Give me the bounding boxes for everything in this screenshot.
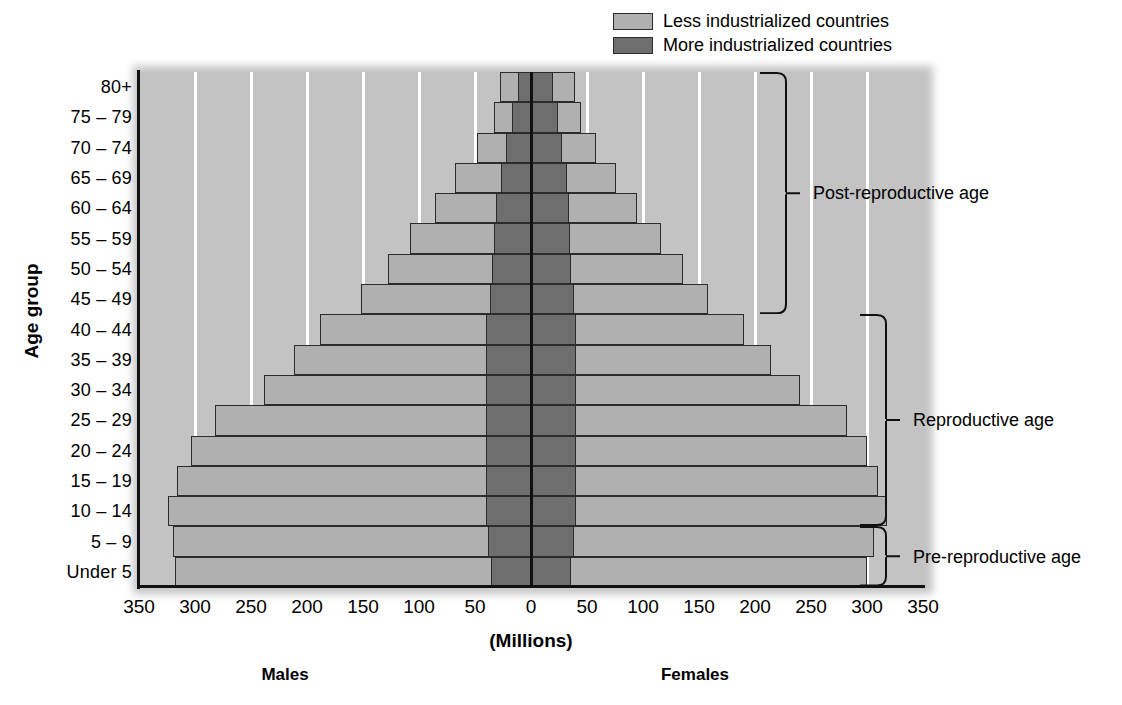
pyramid-row (0, 72, 1122, 102)
x-axis-line (137, 585, 925, 588)
x-axis-tick-label: 200 (277, 596, 337, 618)
bar-males-more-industrialized (486, 405, 531, 435)
bar-males-less-industrialized (168, 496, 531, 526)
bar-males-more-industrialized (506, 133, 531, 163)
x-axis-tick-label: 50 (557, 596, 617, 618)
pyramid-row (0, 223, 1122, 253)
bar-males-less-industrialized (177, 466, 531, 496)
bar-females-less-industrialized (531, 496, 887, 526)
legend-label-less-industrialized: Less industrialized countries (663, 12, 889, 30)
bar-females-less-industrialized (531, 557, 867, 587)
x-axis-tick-label: 350 (893, 596, 953, 618)
pyramid-row (0, 436, 1122, 466)
bar-males-more-industrialized (486, 314, 531, 344)
pyramid-row (0, 284, 1122, 314)
bracket-label: Pre-reproductive age (913, 548, 1081, 566)
bar-females-less-industrialized (531, 466, 878, 496)
x-axis-tick-label: 300 (837, 596, 897, 618)
males-side-label: Males (215, 665, 355, 685)
bar-females-more-industrialized (531, 314, 576, 344)
x-axis-tick-label: 100 (389, 596, 449, 618)
legend-swatch-less-industrialized (613, 13, 653, 30)
x-axis-tick-label: 200 (725, 596, 785, 618)
x-axis-tick-label: 150 (333, 596, 393, 618)
bar-females-more-industrialized (531, 284, 574, 314)
pyramid-row (0, 345, 1122, 375)
center-axis-line (530, 72, 533, 587)
x-axis-tick-label: 250 (781, 596, 841, 618)
bar-females-more-industrialized (531, 466, 576, 496)
x-axis-tick-labels: 3503002502001501005005010015020025030035… (0, 596, 1122, 622)
bar-males-more-industrialized (486, 496, 531, 526)
bar-females-more-industrialized (531, 163, 567, 193)
bar-males-more-industrialized (501, 163, 531, 193)
bracket-reproductive (860, 314, 900, 526)
bracket-label: Reproductive age (913, 411, 1054, 429)
y-axis-line (137, 70, 140, 589)
legend-swatch-more-industrialized (613, 37, 653, 54)
bar-males-less-industrialized (191, 436, 531, 466)
x-axis-tick-label: 150 (669, 596, 729, 618)
bar-females-more-industrialized (531, 557, 571, 587)
bar-males-less-industrialized (215, 405, 531, 435)
pyramid-row (0, 375, 1122, 405)
bar-females-more-industrialized (531, 345, 576, 375)
bar-males-more-industrialized (494, 223, 531, 253)
bar-females-more-industrialized (531, 223, 570, 253)
bar-females-more-industrialized (531, 102, 558, 132)
pyramid-row (0, 254, 1122, 284)
bar-males-more-industrialized (486, 375, 531, 405)
bar-males-more-industrialized (491, 557, 531, 587)
pyramid-row (0, 133, 1122, 163)
bar-males-more-industrialized (486, 436, 531, 466)
legend-label-more-industrialized: More industrialized countries (663, 36, 892, 54)
x-axis-tick-label: 100 (613, 596, 673, 618)
bar-females-more-industrialized (531, 405, 576, 435)
bar-females-less-industrialized (531, 436, 867, 466)
bracket-pre-reproductive (860, 526, 900, 587)
legend-item-less-industrialized: Less industrialized countries (613, 10, 892, 32)
bar-females-more-industrialized (531, 193, 569, 223)
bar-females-more-industrialized (531, 72, 553, 102)
bar-females-less-industrialized (531, 526, 874, 556)
bar-females-more-industrialized (531, 526, 574, 556)
bar-males-more-industrialized (486, 345, 531, 375)
bar-males-more-industrialized (492, 254, 531, 284)
x-axis-tick-label: 350 (109, 596, 169, 618)
x-axis-tick-label: 300 (165, 596, 225, 618)
x-axis-tick-label: 50 (445, 596, 505, 618)
pyramid-row (0, 102, 1122, 132)
bracket-label: Post-reproductive age (813, 184, 989, 202)
bar-males-more-industrialized (496, 193, 531, 223)
legend-item-more-industrialized: More industrialized countries (613, 34, 892, 56)
legend: Less industrialized countries More indus… (613, 10, 892, 58)
pyramid-row (0, 496, 1122, 526)
bar-males-less-industrialized (175, 557, 531, 587)
bar-females-more-industrialized (531, 133, 562, 163)
bar-females-more-industrialized (531, 254, 571, 284)
bar-males-less-industrialized (173, 526, 531, 556)
bar-males-more-industrialized (512, 102, 531, 132)
x-axis-tick-label: 250 (221, 596, 281, 618)
pyramid-row (0, 466, 1122, 496)
bar-males-more-industrialized (490, 284, 531, 314)
bar-males-more-industrialized (488, 526, 531, 556)
bar-females-more-industrialized (531, 496, 576, 526)
x-axis-title: (Millions) (0, 630, 1062, 652)
pyramid-row (0, 314, 1122, 344)
bar-females-more-industrialized (531, 436, 576, 466)
bar-females-more-industrialized (531, 375, 576, 405)
bar-females-less-industrialized (531, 405, 847, 435)
bar-males-more-industrialized (486, 466, 531, 496)
x-axis-tick-label: 0 (501, 596, 561, 618)
bracket-post-reproductive (760, 72, 800, 314)
females-side-label: Females (620, 665, 770, 685)
